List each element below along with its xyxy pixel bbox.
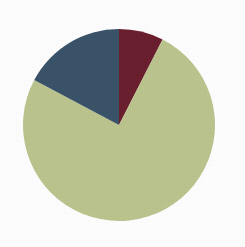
pie-chart-figure [0,0,245,247]
pie-chart-svg [0,0,245,247]
